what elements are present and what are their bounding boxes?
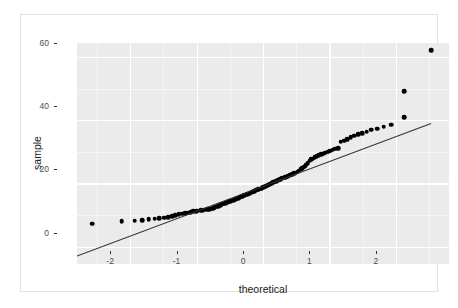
x-axis-tick-mark — [177, 251, 178, 254]
x-axis-tick-label: -1 — [173, 256, 181, 266]
x-axis-tick-mark — [309, 251, 310, 254]
figure-frame: 0204060-2-1012 theoretical sample — [20, 14, 438, 292]
y-axis-tick-mark — [54, 106, 57, 107]
x-axis-tick-mark — [243, 251, 244, 254]
x-axis-tick-label: 1 — [307, 256, 312, 266]
x-axis-title: theoretical — [77, 283, 449, 295]
y-axis-tick-mark — [54, 233, 57, 234]
x-axis-tick-mark — [110, 251, 111, 254]
y-axis-tick-mark — [54, 43, 57, 44]
y-axis-tick-mark — [54, 169, 57, 170]
x-axis-tick-label: -2 — [106, 256, 114, 266]
x-axis-tick-label: 2 — [373, 256, 378, 266]
x-axis-tick-mark — [376, 251, 377, 254]
x-axis-tick-label: 0 — [241, 256, 246, 266]
y-axis-tick-label: 60 — [40, 38, 49, 48]
qq-plot-figure: 0204060-2-1012 theoretical sample — [0, 0, 458, 308]
reference-line — [77, 43, 449, 264]
plot-panel — [77, 43, 449, 264]
y-axis-tick-label: 0 — [44, 228, 49, 238]
y-axis-title: sample — [31, 136, 43, 170]
y-axis-tick-label: 40 — [40, 101, 49, 111]
